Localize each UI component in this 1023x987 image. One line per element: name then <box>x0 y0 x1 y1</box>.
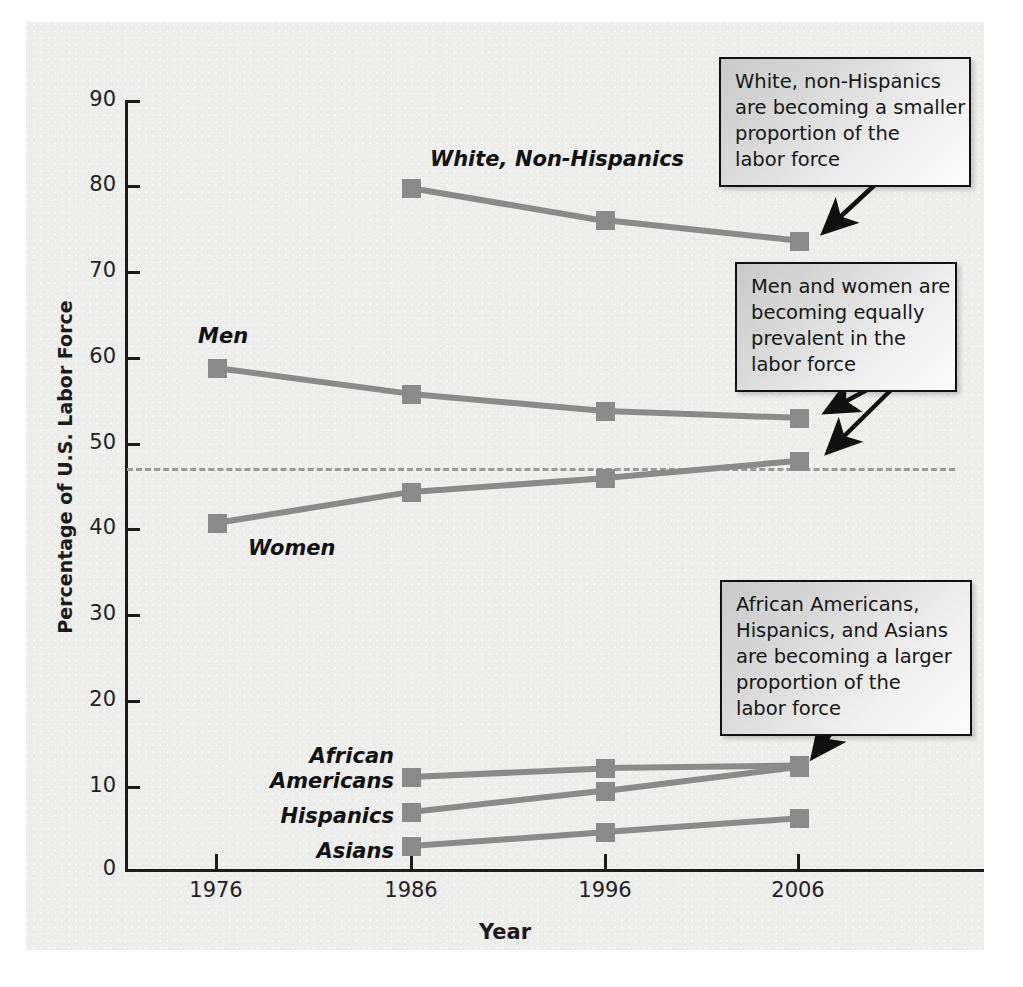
data-point-asians-2006 <box>790 809 809 828</box>
figure-root: 90 80 70 60 50 40 30 20 10 0 1976 1986 1… <box>0 0 1023 987</box>
series-segment-asians <box>411 829 605 849</box>
callout-white-line1: White, non-Hispanics <box>735 69 957 95</box>
callout-white-line2: are becoming a smaller <box>735 95 957 121</box>
data-point-white-1996 <box>596 211 615 230</box>
data-point-hispanics-1996 <box>596 782 615 801</box>
arrow-women <box>828 385 896 452</box>
series-segment-asians <box>605 815 798 835</box>
data-point-hispanics-2006 <box>790 758 809 777</box>
series-label-asians: Asians <box>214 839 394 863</box>
data-point-african-americans-1996 <box>596 759 615 778</box>
data-point-white-1986 <box>402 179 421 198</box>
y-tick-label-90: 90 <box>26 87 116 111</box>
series-label-african-americans-line1: African <box>214 744 394 768</box>
series-segment-white <box>410 185 604 223</box>
callout-menwomen-line2: becoming equally <box>751 300 943 326</box>
callout-minorities-line5: labor force <box>736 696 958 722</box>
callout-men-women[interactable]: Men and women are becoming equally preva… <box>735 262 957 392</box>
y-tick-90 <box>128 100 140 103</box>
x-tick-label-1976: 1976 <box>161 878 271 902</box>
data-point-women-1986 <box>402 483 421 502</box>
callout-white-line4: labor force <box>735 147 957 173</box>
data-point-women-2006 <box>790 452 809 471</box>
reference-line-50 <box>127 468 955 471</box>
series-label-hispanics: Hispanics <box>214 804 394 828</box>
data-point-men-2006 <box>790 409 809 428</box>
x-axis-line <box>125 869 984 872</box>
series-segment-african-americans <box>411 765 604 780</box>
callout-minorities-line3: are becoming a larger <box>736 644 958 670</box>
data-point-asians-1986 <box>402 837 421 856</box>
series-label-white: White, Non-Hispanics <box>430 147 684 171</box>
y-tick-70 <box>128 271 140 274</box>
y-tick-60 <box>128 357 140 360</box>
data-point-men-1976 <box>208 359 227 378</box>
callout-minorities-line4: proportion of the <box>736 670 958 696</box>
series-label-men: Men <box>198 324 248 348</box>
y-axis-line <box>125 100 128 872</box>
callout-minorities-line1: African Americans, <box>736 592 958 618</box>
y-tick-10 <box>128 786 140 789</box>
x-tick-1996 <box>604 854 607 869</box>
y-tick-50 <box>128 443 140 446</box>
callout-minorities-line2: Hispanics, and Asians <box>736 618 958 644</box>
series-segment-men <box>411 391 605 414</box>
data-point-men-1986 <box>402 385 421 404</box>
arrow-white <box>824 180 880 232</box>
callout-menwomen-line4: labor force <box>751 352 943 378</box>
callout-minorities[interactable]: African Americans, Hispanics, and Asians… <box>720 580 972 736</box>
callout-menwomen-line3: prevalent in the <box>751 326 943 352</box>
data-point-white-2006 <box>790 232 809 251</box>
y-tick-40 <box>128 528 140 531</box>
y-tick-30 <box>128 614 140 617</box>
x-tick-label-1986: 1986 <box>356 878 466 902</box>
x-tick-label-2006: 2006 <box>743 878 853 902</box>
series-segment-men <box>605 408 798 421</box>
x-tick-label-1996: 1996 <box>550 878 660 902</box>
series-label-african-americans-line2: Americans <box>214 769 394 793</box>
x-tick-2006 <box>797 854 800 869</box>
series-segment-white <box>604 217 797 243</box>
series-segment-men <box>216 365 410 397</box>
data-point-asians-1996 <box>596 823 615 842</box>
data-point-men-1996 <box>596 402 615 421</box>
callout-white-non-hispanics[interactable]: White, non-Hispanics are becoming a smal… <box>719 57 971 187</box>
data-point-women-1976 <box>208 514 227 533</box>
y-tick-0 <box>128 869 140 872</box>
y-tick-80 <box>128 185 140 188</box>
data-point-african-americans-1986 <box>402 768 421 787</box>
series-segment-women <box>411 475 605 495</box>
y-tick-20 <box>128 700 140 703</box>
data-point-hispanics-1986 <box>402 803 421 822</box>
x-tick-1986 <box>410 854 413 869</box>
chart-canvas: 90 80 70 60 50 40 30 20 10 0 1976 1986 1… <box>26 22 984 950</box>
callout-white-line3: proportion of the <box>735 121 957 147</box>
x-axis-title: Year <box>26 920 984 944</box>
y-axis-title: Percentage of U.S. Labor Force <box>54 147 76 787</box>
data-point-women-1996 <box>596 469 615 488</box>
y-tick-label-0: 0 <box>26 856 116 880</box>
callout-menwomen-line1: Men and women are <box>751 274 943 300</box>
series-segment-women <box>216 489 410 526</box>
series-label-women: Women <box>248 536 336 560</box>
series-segment-hispanics <box>411 788 605 815</box>
